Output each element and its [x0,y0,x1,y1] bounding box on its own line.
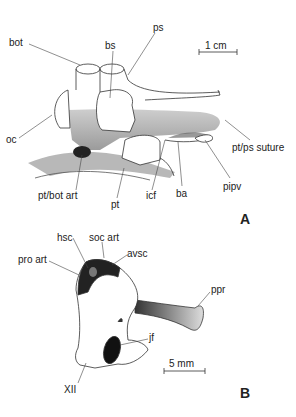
label-soc-art: soc art [89,232,119,243]
label-hsc: hsc [57,232,73,243]
scale-bar-b-label: 5 mm [169,358,194,369]
label-pt-ps-suture: pt/ps suture [232,142,284,153]
label-xii: XII [64,384,76,395]
panel-b-letter: B [240,385,250,401]
label-ps: ps [153,22,164,33]
label-oc: oc [6,134,17,145]
label-avsc: avsc [127,248,148,259]
label-ppr: ppr [211,284,225,295]
label-pro-art: pro art [18,254,47,265]
label-icf: icf [146,190,156,201]
scale-bar-a-label: 1 cm [205,40,227,51]
label-pt: pt [111,199,119,210]
label-jf: jf [149,332,154,343]
label-pipv: pipv [223,181,241,192]
label-bs: bs [105,40,116,51]
label-ba: ba [176,188,187,199]
label-pt-bot-art: pt/bot art [38,190,77,201]
label-bot: bot [9,37,23,48]
panel-b-specimen [76,260,204,368]
panel-a-specimen [28,64,220,180]
panel-a-letter: A [240,211,250,227]
figure-drawing [0,0,296,417]
